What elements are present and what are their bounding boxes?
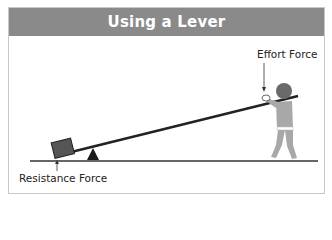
fulcrum-icon bbox=[87, 148, 99, 160]
effort-force-label: Effort Force bbox=[257, 48, 317, 60]
person-icon bbox=[262, 83, 297, 159]
load-box-icon bbox=[51, 138, 74, 158]
resistance-force-label: Resistance Force bbox=[19, 172, 107, 184]
effort-arrowhead-icon bbox=[262, 87, 266, 92]
lever-bar bbox=[55, 96, 298, 156]
